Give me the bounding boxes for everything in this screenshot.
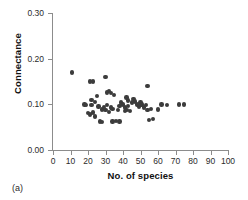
data-point [95,94,99,98]
data-point [103,75,107,79]
y-tick [48,150,52,151]
x-tick-label: 100 [218,157,238,166]
y-axis-title: Connectance [12,19,23,109]
data-point [100,120,104,124]
x-tick [228,151,229,155]
y-tick [48,13,52,14]
y-tick [48,104,52,105]
panel-label: (a) [12,183,23,193]
data-point [91,79,95,83]
x-tick [53,151,54,155]
data-point [182,102,186,106]
data-point [112,93,116,97]
x-axis-title: No. of species [53,170,228,181]
x-tick [106,151,107,155]
data-point [70,70,74,74]
x-tick [141,151,142,155]
y-tick [48,59,52,60]
data-point [128,109,132,113]
data-point [144,103,148,107]
x-tick [88,151,89,155]
x-tick [71,151,72,155]
data-point [117,119,121,123]
data-point [84,103,88,107]
data-point [149,107,153,111]
scatter-plot-figure: 0.000.100.200.30 0102030405060708090100 … [0,0,248,200]
data-point [93,114,97,118]
data-point [165,103,169,107]
data-point [177,102,181,106]
y-tick-label: 0.00 [14,146,44,155]
data-point [156,107,160,111]
data-point [159,102,163,106]
data-point [145,84,149,88]
data-point [151,117,155,121]
x-tick [123,151,124,155]
data-point [110,107,114,111]
plot-area [53,13,228,150]
x-tick [158,151,159,155]
x-tick [176,151,177,155]
data-point [116,108,120,112]
x-tick [211,151,212,155]
y-tick-label: 0.30 [14,9,44,18]
x-tick [193,151,194,155]
